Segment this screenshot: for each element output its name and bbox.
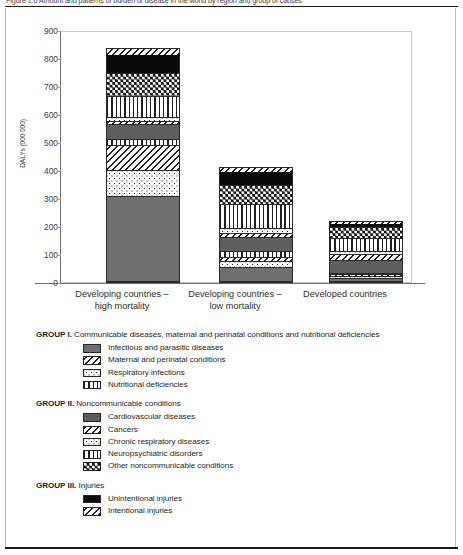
- y-tick: 300: [0, 195, 58, 203]
- y-tick: 900: [0, 27, 58, 35]
- bar-segment[interactable]: [220, 238, 292, 252]
- legend-swatch: [83, 462, 101, 471]
- stacked-bar-chart: DALYs (000 000) 010020030040050060070080…: [0, 0, 463, 300]
- y-tick: 500: [0, 139, 58, 147]
- y-tick-label: 0: [12, 279, 58, 287]
- legend-swatch: [83, 507, 101, 516]
- bar-segment[interactable]: [220, 186, 292, 205]
- bar-segment[interactable]: [330, 239, 402, 252]
- y-tick-label: 700: [12, 83, 58, 91]
- bar-segment[interactable]: [107, 171, 179, 197]
- chart-legend: GROUP I. Communicable diseases, maternal…: [0, 300, 463, 550]
- y-tick: 700: [0, 83, 58, 91]
- legend-swatch: [83, 413, 101, 422]
- bar-column: [219, 31, 293, 283]
- legend-item-label: Other noncommunicable conditions: [108, 461, 233, 471]
- bar-segment[interactable]: [107, 55, 179, 74]
- legend-group-title: Communicable diseases, maternal and peri…: [74, 330, 379, 339]
- y-tick-label: 500: [12, 139, 58, 147]
- bars-area: [61, 31, 411, 283]
- bar-segment[interactable]: [107, 125, 179, 140]
- legend-swatch: [83, 381, 101, 390]
- legend-item-label: Respiratory infections: [108, 368, 185, 378]
- y-tick-mark: [58, 283, 61, 284]
- y-tick-label: 200: [12, 223, 58, 231]
- legend-item-label: Nutritional deficiencies: [108, 380, 188, 390]
- legend-item-label: Cancers: [108, 425, 138, 435]
- legend-swatch: [83, 369, 101, 378]
- legend-group-number: GROUP II.: [36, 399, 76, 408]
- x-category-line: Developed countries: [270, 289, 420, 301]
- bar-segment[interactable]: [107, 97, 179, 118]
- legend-swatch: [83, 356, 101, 365]
- bar-column: [106, 31, 180, 283]
- y-tick-label: 800: [12, 55, 58, 63]
- legend-item-label: Maternal and perinatal conditions: [108, 355, 226, 365]
- y-tick: 200: [0, 223, 58, 231]
- legend-group-number: GROUP I.: [36, 330, 74, 339]
- legend-group-title: Injuries: [78, 481, 104, 490]
- y-tick: 100: [0, 251, 58, 259]
- bar-column: [329, 31, 403, 283]
- legend-swatch: [83, 344, 101, 353]
- bar-segment[interactable]: [220, 268, 292, 282]
- legend-item-label: Unintentional injuries: [108, 494, 182, 504]
- legend-group-number: GROUP III.: [36, 481, 78, 490]
- bar-segment[interactable]: [330, 261, 402, 274]
- x-axis-line: [35, 283, 425, 284]
- legend-group-heading: GROUP II. Noncommunicable conditions: [36, 399, 181, 408]
- legend-item-label: Intentional injuries: [108, 506, 172, 516]
- y-tick-label: 600: [12, 111, 58, 119]
- y-tick-label: 100: [12, 251, 58, 259]
- legend-group-heading: GROUP III. Injuries: [36, 481, 104, 490]
- bar-segment[interactable]: [220, 172, 292, 185]
- legend-swatch: [83, 495, 101, 504]
- legend-item-label: Chronic respiratory diseases: [108, 437, 209, 447]
- y-tick-label: 300: [12, 195, 58, 203]
- legend-swatch: [83, 450, 101, 459]
- legend-swatch: [83, 438, 101, 447]
- legend-item-label: Cardiovascular diseases: [108, 412, 195, 422]
- y-tick: 800: [0, 55, 58, 63]
- bar-segment[interactable]: [220, 205, 292, 229]
- y-tick: 0: [0, 279, 58, 287]
- bar-segment[interactable]: [330, 228, 402, 238]
- bar-segment[interactable]: [107, 74, 179, 96]
- stacked-bar[interactable]: [219, 167, 293, 283]
- y-tick: 600: [0, 111, 58, 119]
- legend-item-label: Neuropsychiatric disorders: [108, 449, 203, 459]
- legend-item-label: Infectious and parasitic diseases: [108, 343, 223, 353]
- legend-swatch: [83, 426, 101, 435]
- legend-group-title: Noncommunicable conditions: [76, 399, 180, 408]
- bar-segment[interactable]: [107, 146, 179, 171]
- x-category-label: Developed countries: [270, 289, 420, 301]
- stacked-bar[interactable]: [329, 221, 403, 283]
- y-tick-label: 900: [12, 27, 58, 35]
- bar-segment[interactable]: [330, 279, 402, 282]
- y-tick: 400: [0, 167, 58, 175]
- bar-segment[interactable]: [107, 197, 179, 282]
- y-tick-label: 400: [12, 167, 58, 175]
- stacked-bar[interactable]: [106, 48, 180, 283]
- legend-group-heading: GROUP I. Communicable diseases, maternal…: [36, 330, 379, 339]
